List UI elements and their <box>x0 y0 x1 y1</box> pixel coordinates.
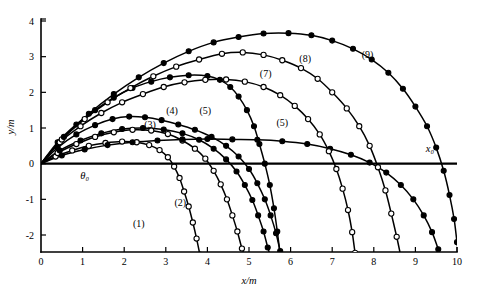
data-point-filled-marker <box>434 145 439 150</box>
data-point-filled-marker <box>217 77 222 82</box>
data-point-filled-marker <box>447 193 452 198</box>
data-point-filled-marker <box>286 31 291 36</box>
projectile-trajectory-figure: -2-101234012345678910(1)(2)(3)(4)(5)(5)(… <box>0 0 483 294</box>
y-axis-title: y/m <box>5 119 16 136</box>
data-point-filled-marker <box>99 131 104 136</box>
data-point-filled-marker <box>255 137 260 142</box>
data-point-filled-marker <box>256 213 261 218</box>
data-point-filled-marker <box>236 154 241 159</box>
data-point-open-marker <box>352 250 357 255</box>
data-point-filled-marker <box>455 240 460 245</box>
data-point-filled-marker <box>305 142 310 147</box>
data-point-filled-marker <box>127 114 132 119</box>
data-point-filled-marker <box>425 124 430 129</box>
data-point-filled-marker <box>78 138 83 143</box>
data-point-filled-marker <box>384 170 389 175</box>
data-point-filled-marker <box>265 245 270 250</box>
data-point-filled-marker <box>441 168 446 173</box>
data-point-open-marker <box>128 85 133 90</box>
data-point-filled-marker <box>61 134 66 139</box>
data-point-filled-marker <box>228 84 233 89</box>
trajectory-series-label: (9) <box>362 49 374 61</box>
data-point-filled-marker <box>268 254 273 259</box>
data-point-open-marker <box>219 51 224 56</box>
y-axis-tick-label: 0 <box>29 158 34 169</box>
data-point-filled-marker <box>261 31 266 36</box>
data-point-filled-marker <box>93 108 98 113</box>
data-point-open-marker <box>394 234 399 239</box>
x-axis-tick-label: 0 <box>39 256 44 267</box>
data-point-filled-marker <box>105 143 110 148</box>
data-point-filled-marker <box>180 131 185 136</box>
data-point-filled-marker <box>161 127 166 132</box>
y-axis-tick-label: 2 <box>29 87 34 98</box>
data-point-open-marker <box>211 168 216 173</box>
data-point-open-marker <box>78 124 83 129</box>
x-axis-tick-label: 2 <box>122 256 127 267</box>
data-point-open-marker <box>165 155 170 160</box>
x-axis-tick-label: 8 <box>371 256 376 267</box>
trajectory-series-label: (7) <box>260 68 272 80</box>
x-axis-tick-label: 1 <box>80 256 85 267</box>
data-point-filled-marker <box>261 229 266 234</box>
data-point-open-marker <box>182 189 187 194</box>
trajectory-series-label: (3) <box>144 119 156 131</box>
data-point-open-marker <box>326 149 331 154</box>
data-point-filled-marker <box>120 127 125 132</box>
data-point-filled-marker <box>136 75 141 80</box>
data-point-open-marker <box>151 74 156 79</box>
data-point-filled-marker <box>251 124 256 129</box>
data-point-open-marker <box>224 77 229 82</box>
trajectory-series-label: (2) <box>175 197 187 209</box>
data-point-filled-marker <box>74 132 79 137</box>
trajectory-curve <box>41 75 280 255</box>
data-point-open-marker <box>165 131 170 136</box>
data-point-filled-marker <box>230 137 235 142</box>
x-axis-title: x/m <box>240 275 257 286</box>
data-point-open-marker <box>298 65 303 70</box>
x-axis-tick-label: 3 <box>163 256 168 267</box>
data-point-filled-marker <box>275 229 280 234</box>
data-point-filled-marker <box>93 123 98 128</box>
data-point-filled-marker <box>267 183 272 188</box>
trajectory-series-label: (4) <box>166 105 178 117</box>
trajectory-series-label: (5) <box>199 105 211 117</box>
data-point-open-marker <box>383 188 388 193</box>
data-point-open-marker <box>261 84 266 89</box>
data-point-open-marker <box>357 124 362 129</box>
data-point-filled-marker <box>348 152 353 157</box>
data-point-open-marker <box>292 103 297 108</box>
x-axis-tick-label: 4 <box>205 256 210 267</box>
data-point-filled-marker <box>224 143 229 148</box>
data-point-open-marker <box>130 127 135 132</box>
y-axis-tick-label: 4 <box>29 16 34 27</box>
data-point-filled-marker <box>351 46 356 51</box>
data-point-filled-marker <box>155 138 160 143</box>
data-point-filled-marker <box>452 216 457 221</box>
trajectory-series-label: (8) <box>299 53 311 65</box>
data-point-open-marker <box>82 116 87 121</box>
data-point-open-marker <box>194 236 199 241</box>
data-point-open-marker <box>280 58 285 63</box>
data-point-filled-marker <box>436 247 441 252</box>
data-point-open-marker <box>120 100 125 105</box>
x-axis-tick-label: 10 <box>452 256 462 267</box>
data-point-open-marker <box>224 197 229 202</box>
data-point-filled-marker <box>280 139 285 144</box>
data-point-open-marker <box>186 204 191 209</box>
data-point-filled-marker <box>211 146 216 151</box>
data-point-open-marker <box>174 64 179 69</box>
data-point-open-marker <box>242 79 247 84</box>
data-point-open-marker <box>305 116 310 121</box>
x-axis-tick-label: 6 <box>288 256 293 267</box>
data-point-open-marker <box>182 80 187 85</box>
data-point-filled-marker <box>398 183 403 188</box>
data-point-filled-marker <box>236 35 241 40</box>
data-point-filled-marker <box>430 230 435 235</box>
data-point-filled-marker <box>255 181 260 186</box>
data-point-open-marker <box>330 90 335 95</box>
data-point-open-marker <box>278 93 283 98</box>
data-point-filled-marker <box>110 117 115 122</box>
data-point-filled-marker <box>197 137 202 142</box>
data-point-filled-marker <box>211 40 216 45</box>
